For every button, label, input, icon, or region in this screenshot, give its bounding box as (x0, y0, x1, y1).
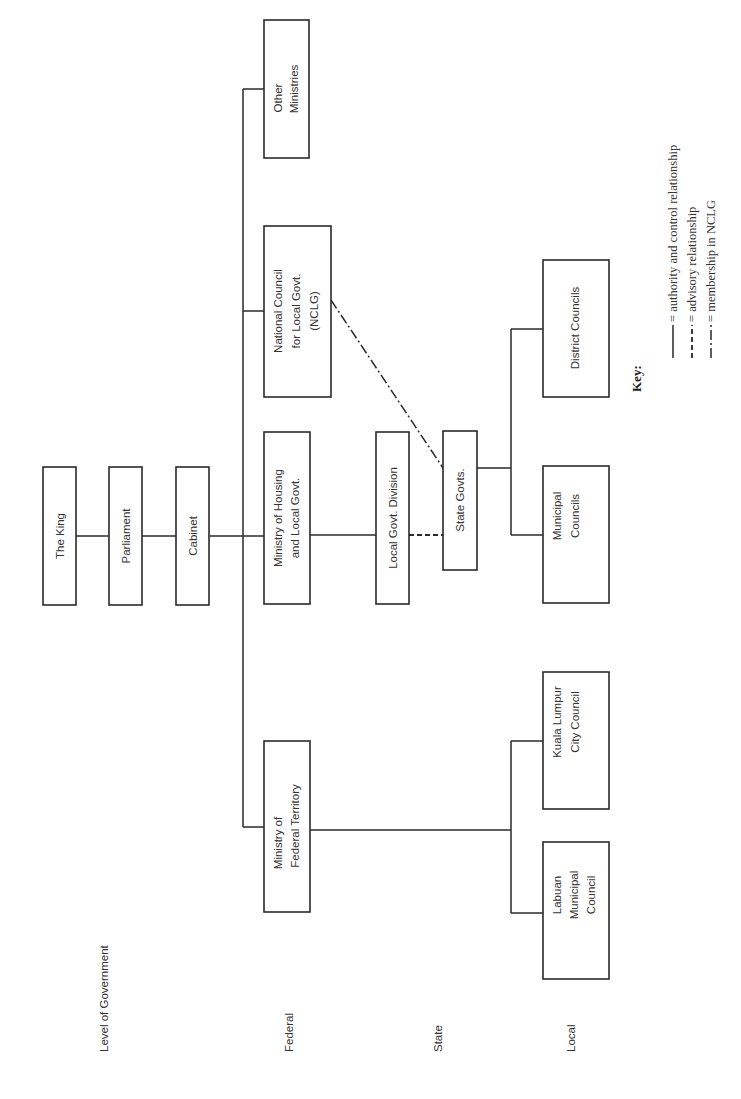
node-other-ministries: Other Ministries (264, 20, 309, 158)
node-ministry-housing: Ministry of Housing and Local Govt. (264, 432, 310, 604)
legend-label-advisory: = advisory relationship (685, 207, 699, 322)
node-kl-city-council: Kuala Lumpur City Council (543, 672, 609, 809)
level-label-federal: Federal (283, 1013, 295, 1052)
node-label: Cabinet (187, 515, 199, 555)
node-label-line-2: City Council (569, 691, 581, 752)
node-label-line-1: Other (272, 83, 284, 112)
node-labuan-municipal-council: Labuan Municipal Council (543, 842, 609, 979)
node-label-line-2: and Local Govt. (289, 478, 301, 559)
node-local-govt-division: Local Govt. Division (376, 432, 409, 604)
node-municipal-councils: Municipal Councils (543, 466, 609, 603)
node-label-line-1: National Council (272, 269, 284, 353)
node-label: Local Govt. Division (387, 467, 399, 569)
node-label-line-2: Ministries (288, 64, 300, 113)
node-label-line-1: Municipal (551, 492, 563, 541)
node-state-govts: State Govts. (443, 431, 477, 570)
node-ministry-federal-territory: Ministry of Federal Territory (264, 741, 310, 912)
node-label-line-3: Council (585, 876, 597, 914)
node-parliament: Parliament (109, 467, 142, 605)
node-label-line-2: for Local Govt. (290, 274, 302, 349)
node-district-councils: District Councils (543, 260, 609, 397)
node-label-line-1: Kuala Lumpur (551, 686, 563, 758)
legend-label-authority: = authority and control relationship (666, 145, 680, 322)
node-label-line-1: Labuan (551, 876, 563, 914)
node-label-line-2: Municipal (568, 871, 580, 920)
node-label: Parliament (120, 508, 132, 564)
node-label: District Councils (569, 287, 581, 370)
node-nclg: National Council for Local Govt. (NCLG) (264, 226, 331, 397)
node-label-line-3: (NCLG) (308, 291, 320, 331)
node-label-line-2: Federal Territory (289, 784, 301, 868)
legend-title: Key: (629, 365, 644, 392)
node-label: The King (54, 513, 66, 559)
level-heading: Level of Government (98, 944, 110, 1052)
org-chart-diagram: The King Parliament Cabinet Other Minist… (0, 0, 741, 1099)
legend: Key: = authority and control relationshi… (629, 145, 718, 392)
node-label: State Govts. (454, 468, 466, 531)
level-label-state: State (432, 1025, 444, 1052)
node-label-line-2: Councils (569, 494, 581, 538)
legend-label-membership: = membership in NCLG (704, 200, 718, 322)
node-label-line-1: Ministry of (272, 816, 284, 869)
node-cabinet: Cabinet (176, 467, 209, 605)
level-label-local: Local (565, 1025, 577, 1053)
node-king: The King (43, 467, 76, 605)
node-label-line-1: Ministry of Housing (272, 469, 284, 567)
